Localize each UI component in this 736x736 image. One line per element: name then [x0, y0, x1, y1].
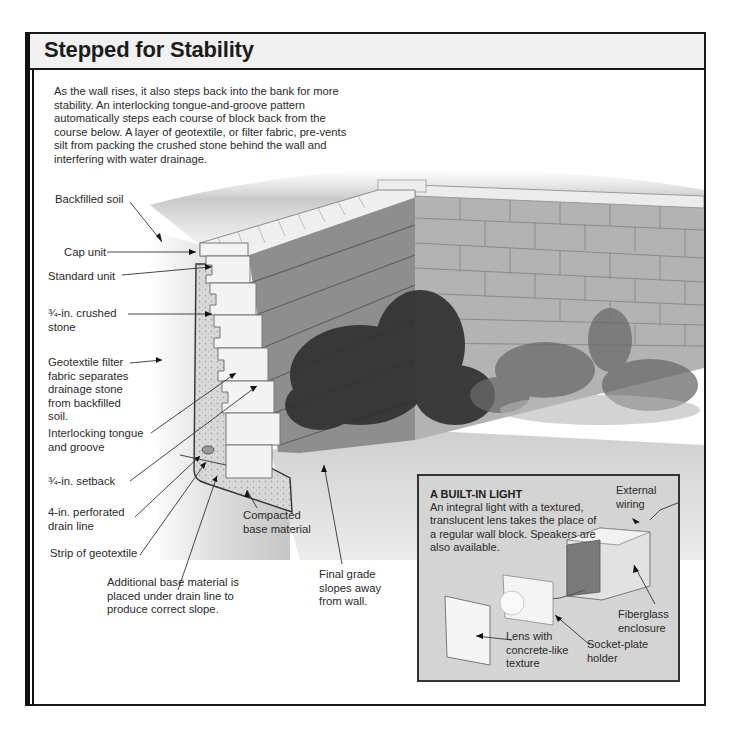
label-geotextile-filter: Geotextile filter fabric separates drain… — [48, 356, 128, 424]
label-additional-base: Additional base material is placed under… — [107, 576, 239, 617]
label-drain-line: 4-in. perforated drain line — [48, 506, 125, 533]
label-final-grade: Final grade slopes away from wall. — [319, 568, 381, 609]
frame-left-bar — [25, 32, 30, 706]
label-cap-unit: Cap unit — [64, 246, 106, 260]
label-setback: ¾-in. setback — [48, 475, 115, 489]
label-socket-plate: Socket-plate holder — [587, 638, 648, 665]
label-backfilled-soil: Backfilled soil — [55, 193, 123, 207]
label-crushed-stone: ¾-in. crushed stone — [48, 307, 116, 334]
label-fiberglass-enclosure: Fiberglass enclosure — [618, 608, 669, 635]
label-strip-geotextile: Strip of geotextile — [50, 547, 137, 561]
label-external-wiring: External wiring — [616, 484, 656, 511]
label-lens: Lens with concrete-like texture — [506, 630, 568, 671]
page-title: Stepped for Stability — [44, 37, 254, 63]
label-standard-unit: Standard unit — [48, 270, 115, 284]
label-compacted-base: Compacted base material — [243, 509, 311, 536]
label-interlocking: Interlocking tongue and groove — [48, 427, 143, 454]
inset-body: An integral light with a textured, trans… — [430, 501, 600, 554]
inset-title: A BUILT-IN LIGHT — [430, 488, 522, 500]
